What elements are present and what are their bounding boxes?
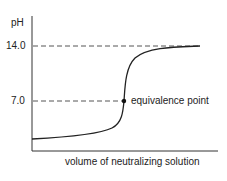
- titration-curve: [32, 46, 200, 139]
- equivalence-point-label: equivalence point: [131, 96, 209, 106]
- y-tick-7: 7.0: [11, 96, 25, 106]
- equivalence-point-marker: [122, 99, 126, 103]
- y-tick-14: 14.0: [6, 41, 25, 51]
- chart-canvas: [0, 0, 227, 181]
- y-axis-label: pH: [11, 18, 24, 28]
- x-axis-label: volume of neutralizing solution: [65, 157, 200, 167]
